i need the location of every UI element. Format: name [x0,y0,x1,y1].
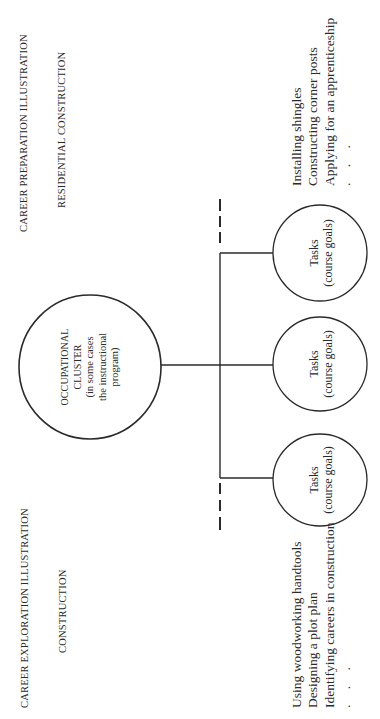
preparation-title: CAREER PREPARATION ILLUSTRATION [19,34,30,232]
list-item: Identifying careers in construction [322,522,338,708]
task-node-label-2: Tasks (course goals) [307,330,335,398]
task-node-subtitle: (course goals) [321,219,335,287]
task-node-label-3: Tasks (course goals) [307,446,335,514]
task-node-subtitle: (course goals) [321,446,335,514]
task-node-title: Tasks [307,446,321,514]
central-node-line-5: program) [109,329,122,406]
exploration-subtitle: CONSTRUCTION [58,570,69,654]
exploration-examples-list: Using woodworking handtools Designing a … [289,522,354,708]
task-node-subtitle: (course goals) [321,330,335,398]
list-item: Applying for an apprenticeship [322,18,338,186]
preparation-examples-list: Installing shingles Constructing corner … [289,18,354,186]
exploration-title: CAREER EXPLORATION ILLUSTRATION [20,508,31,708]
task-node-label-1: Tasks (course goals) [307,219,335,287]
list-item: Constructing corner posts [305,18,321,186]
list-ellipsis: . . . [338,18,354,186]
central-node-line-1: OCCUPATIONAL [59,329,72,406]
central-node-line-4: the instructional [96,329,109,406]
list-item: Using woodworking handtools [289,522,305,708]
preparation-subtitle: RESIDENTIAL CONSTRUCTION [57,52,68,208]
task-node-title: Tasks [307,330,321,398]
list-ellipsis: . . . [338,522,354,708]
central-node-line-2: CLUSTER [71,329,84,406]
task-node-title: Tasks [307,219,321,287]
central-node-label: OCCUPATIONAL CLUSTER (in some cases the … [59,329,122,406]
list-item: Installing shingles [289,18,305,186]
central-node-line-3: (in some cases [84,329,97,406]
list-item: Designing a plot plan [305,522,321,708]
